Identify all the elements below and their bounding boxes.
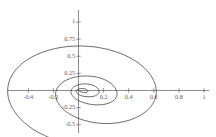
x-tick-label: 0.4 [125,93,133,100]
x-axis-tick-labels: -0.4-0.20.20.40.60.81 [23,93,205,100]
x-tick-label: 0.2 [100,93,108,100]
spiral-curve [8,46,157,137]
y-tick-label: 0.75 [64,35,75,42]
y-tick-label: -0.5 [65,120,75,127]
y-tick-label: 0.25 [64,69,75,76]
y-tick-label: 0.5 [67,52,75,59]
y-axis: 10.750.50.25-0.25-0.5 [62,10,80,133]
y-axis-tick-labels: 10.750.50.25-0.25-0.5 [62,17,75,127]
y-tick-label: 1 [72,17,75,24]
x-tick-label: 0.8 [175,93,183,100]
data-layer [8,46,157,137]
x-tick-label: -0.4 [23,93,33,100]
y-tick-label: -0.25 [62,103,75,110]
chart-container: -0.4-0.20.20.40.60.81 10.750.50.25-0.25-… [0,0,216,137]
x-tick-label: -0.2 [49,93,59,100]
spiral-plot: -0.4-0.20.20.40.60.81 10.750.50.25-0.25-… [0,0,216,137]
x-axis: -0.4-0.20.20.40.60.81 [8,88,209,100]
x-tick-label: 1 [202,93,205,100]
